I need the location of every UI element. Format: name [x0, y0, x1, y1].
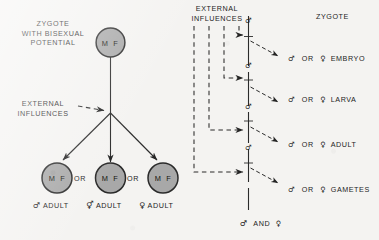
- left-external-influences-caption: EXTERNAL INFLUENCES: [10, 99, 76, 118]
- right-axis-symbol-3: ♂: [245, 102, 252, 112]
- left-outcome-label-3: ADULT: [148, 201, 174, 210]
- right-external-influences-caption: EXTERNAL INFLUENCES: [180, 4, 254, 23]
- left-zygote-male-letter: M: [102, 39, 110, 48]
- right-stage-connector-larva: OR: [302, 95, 314, 104]
- figure-canvas: ZYGOTE WITH BISEXUAL POTENTIAL M F EXTER…: [0, 0, 379, 240]
- left-zygote-circle-label: M F: [96, 39, 125, 48]
- male-symbol-icon: ♂: [288, 95, 295, 104]
- left-zygote-female-letter: F: [113, 39, 119, 48]
- left-external-influence-arrow: [78, 106, 104, 111]
- female-symbol-icon: ♀: [320, 185, 326, 194]
- outcome-2-female-letter: F: [113, 174, 119, 183]
- male-symbol-icon: ♂: [288, 185, 295, 194]
- left-zygote-caption-line-2: WITH BISEXUAL: [14, 29, 92, 39]
- right-bottom-note-conjunction: AND: [253, 219, 270, 228]
- right-stage-row-adult: ♂ OR ♀ ADULT: [288, 140, 357, 150]
- right-stage-connector-embryo: OR: [302, 54, 314, 63]
- right-stage-label-larva: LARVA: [331, 95, 357, 104]
- right-stage-row-embryo: ♂ OR ♀ EMBRYO: [288, 54, 365, 64]
- right-stage-connector-adult: OR: [302, 140, 314, 149]
- left-external-caption-line-2: INFLUENCES: [10, 109, 76, 119]
- right-stage-connector-gametes: OR: [302, 185, 314, 194]
- left-outcome-label-2: ADULT: [96, 201, 122, 210]
- left-outcome-caption-3: ♀ ADULT: [139, 201, 173, 211]
- outcome-2-male-letter: M: [102, 174, 110, 183]
- female-symbol-icon: ♀: [320, 140, 326, 149]
- left-zygote-caption: ZYGOTE WITH BISEXUAL POTENTIAL: [14, 19, 92, 48]
- left-outcome-caption-1: ♂ ADULT: [33, 201, 69, 211]
- left-outcome-label-1: ADULT: [43, 201, 69, 210]
- hermaphrodite-symbol-icon: ⚥: [86, 201, 94, 210]
- left-zygote-caption-line-3: POTENTIAL: [14, 38, 92, 48]
- left-outcome-circle-label-1: M F: [43, 174, 72, 183]
- male-symbol-icon: ♂: [288, 54, 295, 63]
- left-external-caption-line-1: EXTERNAL: [10, 99, 76, 109]
- right-axis-symbol-1: ♂: [245, 16, 252, 26]
- left-outcome-connector-1: OR: [72, 174, 88, 184]
- left-outcome-connector-2: OR: [125, 174, 141, 184]
- right-stage-label-embryo: EMBRYO: [331, 54, 365, 63]
- female-symbol-icon: ♀: [276, 219, 282, 228]
- right-stage-header: ZYGOTE: [316, 12, 349, 22]
- right-stage-row-gametes: ♂ OR ♀ GAMETES: [288, 185, 370, 195]
- female-symbol-icon: ♀: [320, 95, 326, 104]
- right-stage-row-larva: ♂ OR ♀ LARVA: [288, 95, 356, 105]
- right-external-caption-line-2: INFLUENCES: [180, 14, 254, 24]
- left-outcome-caption-2: ⚥ ADULT: [86, 201, 122, 211]
- female-symbol-icon: ♀: [139, 201, 145, 210]
- outcome-3-male-letter: M: [155, 174, 163, 183]
- male-symbol-icon: ♂: [33, 201, 41, 210]
- right-external-caption-line-1: EXTERNAL: [180, 4, 254, 14]
- female-symbol-icon: ♀: [320, 54, 326, 63]
- right-axis-symbol-4: ♂: [245, 143, 252, 153]
- left-zygote-caption-line-1: ZYGOTE: [14, 19, 92, 29]
- outcome-1-female-letter: F: [60, 174, 66, 183]
- male-symbol-icon: ♂: [240, 219, 248, 228]
- left-outcome-circle-label-2: M F: [96, 174, 125, 183]
- left-outcome-circle-label-3: M F: [149, 174, 178, 183]
- right-external-influence-paths: [194, 26, 243, 172]
- left-branch-arrows: [63, 113, 157, 162]
- outcome-3-female-letter: F: [166, 174, 172, 183]
- right-bottom-note: ♂ AND ♀: [240, 219, 282, 229]
- right-axis-symbol-2: ♂: [245, 61, 252, 71]
- right-stage-label-adult: ADULT: [331, 140, 357, 149]
- right-stage-branch-arrows: [251, 41, 279, 183]
- right-stage-label-gametes: GAMETES: [331, 185, 370, 194]
- male-symbol-icon: ♂: [288, 140, 295, 149]
- outcome-1-male-letter: M: [49, 174, 57, 183]
